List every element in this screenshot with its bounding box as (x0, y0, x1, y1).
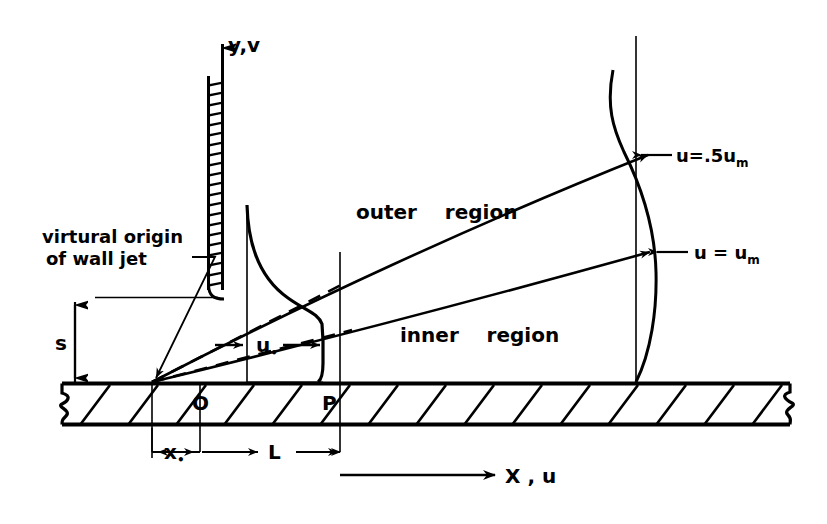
nozzle-plate (206, 44, 226, 299)
virtual-origin-label-line1: virtural origin (42, 226, 183, 247)
exit-velocity-label: u• (256, 333, 278, 360)
max-velocity-label: u = um (694, 242, 760, 267)
figure-root: y,v s virtural origin of wall jet u• out… (0, 0, 827, 524)
point-p-label: P (322, 391, 337, 415)
downstream-velocity-profile (610, 70, 656, 382)
x-axis-label: X , u (505, 464, 556, 488)
outer-region-label: outer region (356, 200, 517, 224)
slot-height-label: s (55, 331, 67, 355)
wall-jet-diagram: y,v s virtural origin of wall jet u• out… (0, 0, 827, 524)
wall-plate (61, 384, 794, 426)
wall-hatching (80, 385, 782, 425)
wall-break-right-icon (785, 384, 794, 425)
virtual-origin-label-line2: of wall jet (46, 248, 147, 269)
inner-region-boundary-line (152, 252, 650, 382)
outer-region-boundary-line (152, 155, 648, 382)
wall-break-left-icon (61, 384, 68, 425)
L-label: L (268, 440, 281, 464)
half-max-label: u=.5um (676, 145, 749, 170)
virtual-origin-leader-line (156, 257, 215, 378)
inner-region-label: inner region (400, 323, 559, 347)
y-axis-label: y,v (228, 33, 260, 57)
point-o-label: O (192, 391, 209, 415)
x0-label: x• (164, 440, 185, 467)
